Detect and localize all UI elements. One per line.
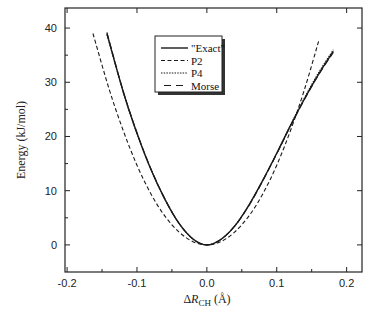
x-tick-label: 0.2 bbox=[339, 277, 354, 289]
y-tick-label: 40 bbox=[45, 22, 57, 34]
x-label-sub: CH bbox=[198, 298, 211, 308]
legend-label: Morse bbox=[191, 80, 219, 92]
y-tick-label: 30 bbox=[45, 76, 57, 88]
energy-curve-chart: -0.2-0.10.00.10.2010203040 "Exact"P2P4Mo… bbox=[0, 0, 378, 325]
legend-label: "Exact" bbox=[191, 42, 225, 54]
y-tick-label: 20 bbox=[45, 130, 57, 142]
y-axis-label: Energy (kJ/mol) bbox=[14, 101, 28, 179]
legend-label: P2 bbox=[191, 55, 203, 67]
legend: "Exact"P2P4Morse bbox=[155, 36, 225, 95]
y-tick-label: 10 bbox=[45, 185, 57, 197]
legend-label: P4 bbox=[191, 67, 203, 79]
x-tick-label: -0.1 bbox=[127, 277, 146, 289]
x-tick-label: 0.1 bbox=[269, 277, 284, 289]
y-tick-label: 0 bbox=[51, 239, 57, 251]
x-tick-label: -0.2 bbox=[58, 277, 77, 289]
x-label-unit: (Å) bbox=[211, 292, 231, 306]
x-tick-label: 0.0 bbox=[199, 277, 214, 289]
